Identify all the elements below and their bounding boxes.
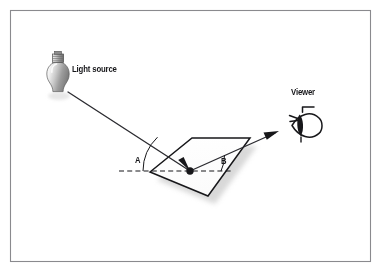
eye-brow xyxy=(303,107,315,112)
eye-lash-lower xyxy=(290,121,298,122)
light-bulb-icon xyxy=(47,51,70,100)
reflection-point-dot xyxy=(186,167,193,174)
eye-icon xyxy=(290,107,323,142)
incident-ray xyxy=(68,92,190,171)
angle-b-label: B xyxy=(221,156,227,166)
bulb-shadow xyxy=(48,92,70,100)
bulb-glass xyxy=(47,62,69,92)
diagram-canvas xyxy=(0,0,381,277)
reflection-diagram-figure: Light source Viewer A B xyxy=(0,0,381,277)
viewer-label: Viewer xyxy=(291,86,315,97)
reflected-ray-arrow-icon xyxy=(264,131,280,140)
angle-a-label: A xyxy=(135,155,141,165)
bulb-base-cap xyxy=(55,51,62,54)
incident-ray-group xyxy=(68,92,190,171)
light-source-label: Light source xyxy=(72,63,117,74)
